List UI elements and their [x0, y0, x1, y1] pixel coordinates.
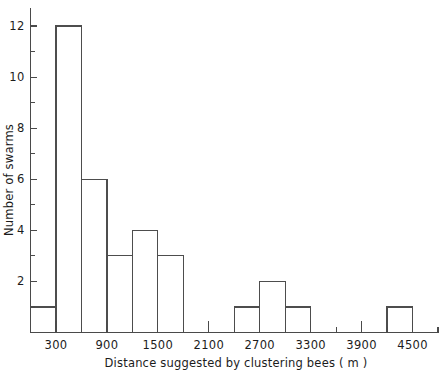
x-tick-label: 3900	[346, 338, 376, 352]
chart-figure: 300900150021002700330039004500 24681012 …	[0, 0, 441, 378]
y-tick-label: 2	[17, 274, 25, 288]
y-tick-label: 8	[17, 121, 25, 135]
x-tick-label: 3300	[295, 338, 325, 352]
x-tick-label: 300	[45, 338, 68, 352]
histogram-bar	[31, 307, 56, 333]
histogram-bar	[81, 179, 106, 332]
x-axis-title: Distance suggested by clustering bees ( …	[105, 356, 368, 370]
x-tick-label: 4500	[397, 338, 427, 352]
histogram-bar	[107, 256, 132, 333]
bars-group	[31, 26, 413, 333]
histogram-bar	[132, 230, 157, 332]
x-tick-label: 1500	[143, 338, 173, 352]
histogram-bar	[260, 281, 285, 332]
plot-area: 300900150021002700330039004500 24681012	[9, 8, 438, 352]
y-tick-label: 4	[17, 223, 25, 237]
y-axis	[31, 8, 37, 333]
x-tick-label: 900	[95, 338, 118, 352]
histogram-bar	[234, 307, 259, 333]
y-tick-label: 12	[9, 19, 24, 33]
x-tick-label: 2100	[194, 338, 224, 352]
histogram-canvas: 300900150021002700330039004500 24681012 …	[0, 0, 441, 378]
histogram-bar	[387, 307, 412, 333]
x-tick-label: 2700	[244, 338, 274, 352]
histogram-bar	[56, 26, 81, 333]
y-tick-label: 10	[9, 70, 24, 84]
y-tick-label: 6	[17, 172, 25, 186]
histogram-bar	[158, 256, 183, 333]
y-axis-title: Number of swarms	[2, 124, 16, 236]
x-tick-labels: 300900150021002700330039004500	[45, 338, 428, 352]
histogram-bar	[285, 307, 310, 333]
